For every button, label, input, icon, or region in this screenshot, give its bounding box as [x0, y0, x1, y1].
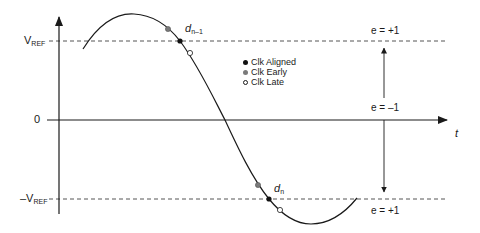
filled-gray-dot-icon: [243, 70, 248, 75]
filled-black-dot-icon: [243, 60, 248, 65]
zero-label: 0: [34, 114, 40, 125]
clk-early-point-top: [165, 26, 170, 31]
legend-label: Clk Late: [251, 77, 284, 87]
clk-late-point-top: [187, 50, 192, 55]
legend: Clk Aligned Clk Early Clk Late: [243, 57, 296, 87]
legend-item-early: Clk Early: [243, 67, 296, 77]
neg-vref-label: –VREF: [20, 193, 47, 205]
clk-early-point-bottom: [255, 182, 260, 187]
error-bottom-label: e = +1: [371, 206, 399, 216]
hollow-dot-icon: [243, 80, 248, 85]
clk-late-point-bottom: [277, 207, 282, 212]
legend-label: Clk Early: [251, 67, 287, 77]
time-axis-label: t: [455, 128, 458, 139]
vref-label: VREF: [24, 35, 45, 47]
error-middle-label: e = –1: [371, 103, 399, 113]
diagram-canvas: [0, 0, 480, 233]
d-n-minus-1-label: dn–1: [185, 23, 203, 35]
clk-aligned-point-bottom: [266, 196, 271, 201]
signal-curve: [83, 14, 357, 224]
clk-aligned-point-top: [177, 38, 182, 43]
error-top-label: e = +1: [371, 26, 399, 36]
legend-item-aligned: Clk Aligned: [243, 57, 296, 67]
legend-label: Clk Aligned: [251, 57, 296, 67]
legend-item-late: Clk Late: [243, 77, 296, 87]
d-n-label: dn: [274, 183, 284, 195]
